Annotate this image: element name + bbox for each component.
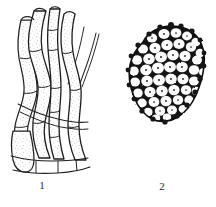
figure-2-drawing xyxy=(108,0,216,178)
filament-thin-right-edge xyxy=(82,34,99,87)
figure-1: 1 xyxy=(0,0,108,207)
figure-1-drawing xyxy=(0,0,108,178)
basal-partition-3 xyxy=(76,160,77,171)
figure-2-caption: 2 xyxy=(108,181,216,192)
illustration-plate: 1 xyxy=(0,0,216,207)
figure-2: 2 xyxy=(108,0,216,207)
figure-1-caption: 1 xyxy=(0,180,96,191)
filament-basal-cell xyxy=(12,131,35,172)
